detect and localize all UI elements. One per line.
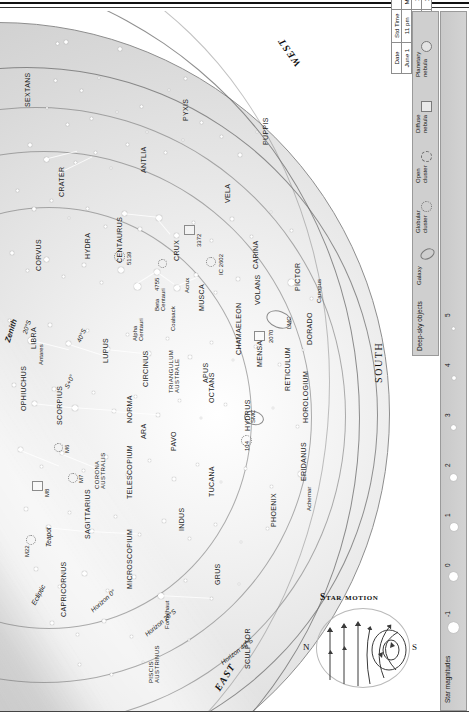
magnitude-dot-1 xyxy=(450,523,458,531)
dso-label-m8: M8 xyxy=(44,489,50,497)
star xyxy=(266,527,269,530)
dso-label-3372: 3372 xyxy=(196,234,202,247)
constellation-label-pavo: PAVO xyxy=(170,431,177,451)
star xyxy=(188,537,191,540)
magnitude-dot-5 xyxy=(452,327,455,330)
dso-label-2070: 2070 xyxy=(268,330,274,343)
dso-label-coalsack: Coalsack xyxy=(170,306,176,331)
star-motion-inset: Star motion N S xyxy=(300,592,422,710)
constellation-label-eridanus: ERIDANUS xyxy=(300,442,307,481)
star xyxy=(118,267,124,273)
diffuse-nebula-3372-marker xyxy=(184,225,195,235)
star xyxy=(182,139,184,141)
legend-label-globular-cluster: Globular cluster xyxy=(415,210,429,233)
constellation-label-circinus: CIRCINUS xyxy=(142,350,149,387)
star xyxy=(80,89,83,92)
star xyxy=(44,257,49,262)
constellation-label-vela: VELA xyxy=(224,184,231,203)
star xyxy=(178,399,181,402)
star xyxy=(110,167,112,169)
constellation-label-libra: LIBRA xyxy=(30,327,37,349)
star xyxy=(82,571,87,576)
piscis-line2: AUSTRINUS xyxy=(154,645,160,683)
star xyxy=(118,47,122,51)
diffuse-nebula-square-icon xyxy=(421,101,432,112)
constellation-label-chamaeleon: CHAMAELEON xyxy=(235,302,242,355)
constellation-label-sextans: SEXTANS xyxy=(24,72,31,107)
star xyxy=(140,105,143,108)
star xyxy=(16,189,19,192)
constellation-label-hydra: HYDRA xyxy=(84,233,91,259)
magnitude-dot-0 xyxy=(449,572,458,581)
star xyxy=(10,251,14,255)
legend-label-open-cluster: Open cluster xyxy=(415,165,429,183)
star xyxy=(94,151,97,154)
star xyxy=(102,619,106,623)
star xyxy=(272,407,274,409)
star xyxy=(210,341,213,344)
constellation-label-grus: GRUS xyxy=(214,563,221,585)
star xyxy=(146,131,148,133)
star xyxy=(82,263,86,267)
magnitude-dot-2 xyxy=(450,474,457,481)
dso-label-104: 104 xyxy=(244,441,250,451)
star xyxy=(82,469,85,472)
star xyxy=(62,275,65,278)
star xyxy=(278,363,281,366)
star xyxy=(302,349,304,351)
star xyxy=(172,477,176,481)
star xyxy=(66,123,69,126)
planetary-line2: nebula xyxy=(422,59,428,77)
constellation-label-capricornus: CAPRICORNUS xyxy=(60,561,67,617)
star-label-antares: Antares xyxy=(38,344,44,365)
constellation-label-ara: ARA xyxy=(140,424,147,439)
planetary-line1: Planetary xyxy=(415,52,421,77)
table-header-dst: DST xyxy=(392,0,402,9)
dso-label-5139: 5139 xyxy=(126,252,132,265)
constellation-label-lupus: LUPUS xyxy=(102,338,109,363)
table-cell-date: June 1 xyxy=(402,42,412,73)
star xyxy=(162,519,166,523)
star xyxy=(12,383,16,387)
constellation-label-pyxis: PYXIS xyxy=(182,99,189,121)
star xyxy=(68,511,71,514)
star xyxy=(244,467,247,470)
dso-label-lmc: LMC xyxy=(286,316,292,329)
star xyxy=(126,333,129,336)
triangulum-line2: AUSTRALE xyxy=(174,359,180,393)
star xyxy=(76,633,79,636)
magnitude-label-4: 4 xyxy=(444,363,451,367)
constellation-label-norma: NORMA xyxy=(126,395,133,423)
magnitude-label-2: 2 xyxy=(444,463,451,467)
legend-label-galaxy: Galaxy xyxy=(416,266,423,285)
star xyxy=(250,235,253,238)
deep-sky-legend-title: Deep-sky objects xyxy=(416,301,423,351)
star xyxy=(26,269,29,272)
dso-label-m7: M7 xyxy=(78,475,84,483)
star xyxy=(126,143,129,146)
constellation-label-piscis-austrinus: PISCIS AUSTRINUS xyxy=(148,645,160,683)
star xyxy=(134,395,137,398)
star xyxy=(174,233,179,238)
magnitude-label-5: 5 xyxy=(444,313,451,317)
dso-label-m22: M22 xyxy=(24,545,30,557)
table-cell-dst: 11 pm xyxy=(412,0,422,9)
planetary-nebula-circle-icon xyxy=(421,41,432,52)
legend-column: Deep-sky objects Galaxy Globular cluster… xyxy=(412,11,469,711)
constellation-label-sagittarius: SAGITTARIUS xyxy=(84,489,91,539)
star xyxy=(184,579,187,582)
star xyxy=(220,481,222,483)
star-chart-page: SEXTANS CRATER CORVUS HYDRA ANTLIA PYXIS… xyxy=(0,0,469,725)
constellation-label-reticulum: RETICULUM xyxy=(284,347,291,391)
constellation-label-triangulum-australe: TRIANGULUM AUSTRALE xyxy=(168,350,180,393)
star xyxy=(40,465,43,468)
open-line1: Open xyxy=(415,168,421,183)
constellation-label-indus: INDUS xyxy=(178,507,185,531)
star xyxy=(164,151,167,154)
open-cluster-m6-marker xyxy=(54,443,63,452)
constellation-label-telescopium: TELESCOPIUM xyxy=(126,445,133,499)
star xyxy=(188,355,192,359)
constellation-label-puppis: PUPPIS xyxy=(262,117,269,145)
diffuse-line2: nebula xyxy=(422,115,428,133)
star xyxy=(78,663,81,666)
